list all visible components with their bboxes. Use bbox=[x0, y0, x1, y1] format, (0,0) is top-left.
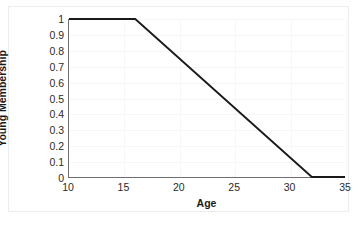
x-axis-tick-label: 20 bbox=[164, 181, 194, 193]
x-axis-tick-label: 15 bbox=[108, 181, 138, 193]
x-axis-tick-label: 30 bbox=[275, 181, 305, 193]
gridline bbox=[346, 19, 347, 177]
y-axis-title: Young Membership bbox=[0, 19, 9, 178]
y-axis-tick-label: 0.2 bbox=[38, 141, 64, 151]
x-axis-title: Age bbox=[68, 197, 345, 209]
x-axis-tick-label: 35 bbox=[330, 181, 359, 193]
plot-area bbox=[68, 19, 345, 178]
y-axis-tick-label: 0.3 bbox=[38, 125, 64, 135]
y-axis-tick-label: 0.4 bbox=[38, 109, 64, 119]
y-axis-tick-label: 0.5 bbox=[38, 94, 64, 104]
chart-figure: 00.10.20.30.40.50.60.70.80.91 1015202530… bbox=[0, 0, 359, 240]
y-axis-tick-label: 1 bbox=[38, 14, 64, 24]
y-axis-tick-label: 0.7 bbox=[38, 62, 64, 72]
y-axis-tick-label: 0.9 bbox=[38, 30, 64, 40]
series-young-line bbox=[69, 19, 345, 177]
x-axis-tick-label: 10 bbox=[53, 181, 83, 193]
membership-polyline bbox=[69, 19, 345, 177]
y-axis-tick-label: 0.6 bbox=[38, 78, 64, 88]
x-axis-tick-label: 25 bbox=[219, 181, 249, 193]
y-axis-tick-label: 0.8 bbox=[38, 46, 64, 56]
y-axis-tick-labels: 00.10.20.30.40.50.60.70.80.91 bbox=[36, 19, 64, 178]
y-axis-tick-label: 0.1 bbox=[38, 157, 64, 167]
y-axis-title-wrapper: Young Membership bbox=[9, 19, 23, 178]
x-axis-tick-labels: 101520253035 bbox=[68, 181, 345, 197]
